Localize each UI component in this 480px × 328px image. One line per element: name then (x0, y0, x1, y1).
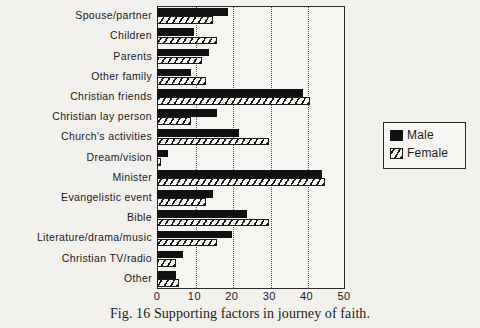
category-label: Parents (113, 51, 152, 62)
category-label: Bible (127, 212, 152, 223)
bar-male (157, 49, 209, 57)
category-label: Literature/drama/music (37, 232, 152, 243)
bars-layer (157, 6, 345, 289)
bar-female (157, 97, 310, 105)
bar-male (157, 190, 213, 198)
category-label: Other family (91, 71, 152, 82)
figure-container: Spouse/partnerChildrenParentsOther famil… (0, 0, 480, 328)
bar-male (157, 109, 217, 117)
bar-male (157, 8, 228, 16)
x-tick-label: 10 (188, 290, 201, 302)
bar-male (157, 28, 194, 36)
category-label: Children (110, 30, 152, 41)
bar-female (157, 16, 213, 24)
female-swatch-icon (390, 148, 403, 159)
category-label: Evangelistic event (61, 192, 152, 203)
bar-female (157, 178, 325, 186)
bar-male (157, 231, 232, 239)
category-label: Christian TV/radio (62, 253, 152, 264)
bar-female (157, 219, 269, 227)
bar-female (157, 117, 191, 125)
figure-caption: Fig. 16 Supporting factors in journey of… (0, 306, 480, 322)
x-tick-label: 30 (263, 290, 276, 302)
chart-legend: Male Female (383, 122, 466, 169)
legend-label-female: Female (407, 146, 448, 160)
category-label: Minister (112, 172, 152, 183)
bar-male (157, 251, 183, 259)
bar-female (157, 57, 202, 65)
x-tick-label: 50 (337, 290, 350, 302)
bar-female (157, 77, 206, 85)
x-tick-label: 40 (300, 290, 313, 302)
category-label: Spouse/partner (75, 10, 152, 21)
bar-female (157, 279, 179, 287)
legend-item-female: Female (390, 146, 465, 160)
category-label: Other (124, 273, 152, 284)
bar-female (157, 138, 269, 146)
legend-item-male: Male (390, 128, 465, 142)
bar-male (157, 129, 239, 137)
bar-female (157, 158, 161, 166)
bar-male (157, 210, 247, 218)
male-swatch-icon (390, 130, 403, 141)
category-label: Dream/vision (87, 152, 152, 163)
category-label: Church's activities (61, 131, 152, 142)
category-label: Christian friends (70, 91, 152, 102)
bar-female (157, 259, 176, 267)
bar-male (157, 89, 303, 97)
bar-male (157, 170, 322, 178)
bar-male (157, 271, 176, 279)
bar-male (157, 69, 191, 77)
x-tick-label: 20 (225, 290, 238, 302)
category-axis: Spouse/partnerChildrenParentsOther famil… (0, 6, 155, 289)
x-tick-label: 0 (154, 290, 161, 302)
bar-female (157, 198, 206, 206)
bar-female (157, 37, 217, 45)
category-label: Christian lay person (52, 111, 152, 122)
value-axis: 01020304050 (0, 290, 480, 306)
bar-female (157, 239, 217, 247)
legend-label-male: Male (407, 128, 434, 142)
bar-male (157, 150, 168, 158)
